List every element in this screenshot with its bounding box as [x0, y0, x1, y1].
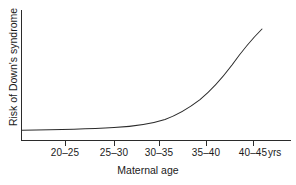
- x-axis-unit-label: yrs: [268, 147, 281, 159]
- y-axis-title-wrapper: Risk of Down's syndrome: [6, 2, 20, 132]
- x-tick-label-1: 20–25: [41, 147, 89, 159]
- x-tick-label-4: 35–40: [182, 147, 230, 159]
- x-axis-title: Maternal age: [0, 164, 296, 177]
- x-tick-label-2: 25–30: [90, 147, 138, 159]
- chart-figure: 20–25 25–30 30–35 35–40 40–45 yrs Matern…: [0, 0, 296, 185]
- risk-curve: [22, 29, 262, 130]
- y-axis-title: Risk of Down's syndrome: [6, 2, 20, 132]
- x-tick-label-3: 30–35: [135, 147, 183, 159]
